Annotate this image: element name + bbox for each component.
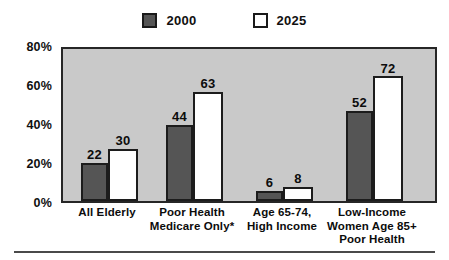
x-label-poor-health-medicare: Poor Health Medicare Only* xyxy=(150,206,235,233)
value-label-poor-health-medicare-2025: 63 xyxy=(201,76,216,91)
x-label-line: Medicare Only* xyxy=(150,220,235,234)
y-tick-20: 20% xyxy=(26,157,52,171)
x-label-low-income-women-85: Low-Income Women Age 85+ Poor Health xyxy=(327,206,417,247)
y-tick-80: 80% xyxy=(26,40,52,54)
legend-swatch-hollow-square-icon xyxy=(253,13,268,28)
plot-inner: 22 30 44 63 6 8 52 72 xyxy=(63,49,435,201)
value-label-poor-health-medicare-2000: 44 xyxy=(172,109,187,124)
x-label-line: Low-Income xyxy=(327,206,417,220)
x-label-line: Poor Health xyxy=(327,233,417,247)
y-tick-0: 0% xyxy=(34,196,52,210)
legend-item-2000: 2000 xyxy=(142,13,196,28)
chart-legend: 2000 2025 xyxy=(0,6,449,34)
legend-label-2025: 2025 xyxy=(277,14,307,27)
chart-plot-area: 22 30 44 63 6 8 52 72 xyxy=(61,47,437,203)
value-label-age-65-74-high-income-2025: 8 xyxy=(294,171,301,186)
bar-poor-health-medicare-2025 xyxy=(193,92,223,201)
x-axis-category-labels: All Elderly Poor Health Medicare Only* A… xyxy=(61,206,437,254)
bar-all-elderly-2025 xyxy=(108,149,138,201)
x-label-line: Poor Health xyxy=(150,206,235,220)
bar-low-income-women-85-2000 xyxy=(346,111,373,201)
value-label-low-income-women-85-2000: 52 xyxy=(352,95,367,110)
x-label-line: All Elderly xyxy=(78,206,135,220)
value-label-all-elderly-2025: 30 xyxy=(116,133,131,148)
x-label-age-65-74-high-income: Age 65-74, High Income xyxy=(247,206,317,233)
bar-all-elderly-2000 xyxy=(81,163,108,201)
bar-age-65-74-high-income-2025 xyxy=(283,187,313,201)
bar-low-income-women-85-2025 xyxy=(373,76,403,201)
legend-item-2025: 2025 xyxy=(253,13,307,28)
x-label-line: Age 65-74, xyxy=(247,206,317,220)
bar-poor-health-medicare-2000 xyxy=(166,125,193,201)
legend-label-2000: 2000 xyxy=(166,14,196,27)
x-label-line: High Income xyxy=(247,220,317,234)
legend-swatch-filled-square-icon xyxy=(142,13,157,28)
x-label-line: Women Age 85+ xyxy=(327,220,417,234)
y-axis: 0% 20% 40% 60% 80% xyxy=(0,47,57,207)
value-label-age-65-74-high-income-2000: 6 xyxy=(266,175,273,190)
bar-age-65-74-high-income-2000 xyxy=(256,191,283,201)
value-label-all-elderly-2000: 22 xyxy=(87,147,102,162)
y-tick-60: 60% xyxy=(26,79,52,93)
y-tick-40: 40% xyxy=(26,118,52,132)
value-label-low-income-women-85-2025: 72 xyxy=(381,61,396,76)
footer-divider xyxy=(14,251,435,253)
x-label-all-elderly: All Elderly xyxy=(78,206,135,220)
